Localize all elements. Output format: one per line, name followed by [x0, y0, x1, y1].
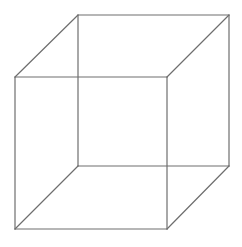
background: [0, 0, 242, 247]
cube-diagram: [0, 0, 242, 247]
